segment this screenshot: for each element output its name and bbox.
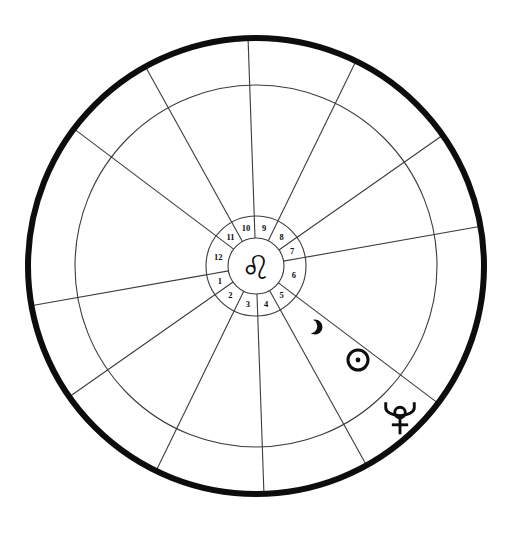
astrology-chart-wheel: 123456789101112 ♌: [0, 0, 511, 541]
house-divider-4: [257, 294, 258, 316]
sign-glyph-leo: ♌: [241, 248, 271, 287]
house-divider-10: [254, 216, 255, 238]
house-number-8: 8: [279, 232, 283, 242]
chart-wheel-svg: 123456789101112 ♌: [0, 0, 511, 541]
house-number-9: 9: [262, 223, 266, 233]
house-number-7: 7: [290, 246, 295, 256]
house-number-10: 10: [242, 223, 251, 233]
house-number-1: 1: [218, 276, 222, 286]
house-number-4: 4: [264, 299, 269, 309]
house-number-3: 3: [246, 299, 250, 309]
house-number-5: 5: [279, 290, 283, 300]
house-number-6: 6: [292, 270, 296, 280]
planet-glyph-moon: [308, 320, 323, 335]
center-sign-glyph: ♌: [241, 248, 271, 287]
house-number-12: 12: [214, 252, 223, 262]
house-number-11: 11: [226, 232, 234, 242]
house-number-2: 2: [228, 290, 232, 300]
